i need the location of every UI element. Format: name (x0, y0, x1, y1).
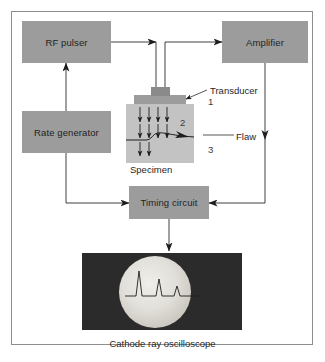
label-flaw: Flaw (236, 131, 256, 142)
label-echo-2: 2 (180, 117, 185, 128)
cro-phosphor-glow (119, 256, 191, 328)
block-timing-circuit: Timing circuit (129, 186, 209, 219)
transducer-body (134, 95, 186, 104)
cathode-ray-oscilloscope-screen (82, 253, 242, 330)
label-specimen: Specimen (130, 164, 172, 175)
label-echo-3: 3 (208, 144, 213, 155)
label-echo-1: 1 (208, 96, 213, 107)
specimen-block (126, 104, 194, 163)
block-rate-generator: Rate generator (22, 111, 111, 153)
block-amplifier: Amplifier (222, 21, 308, 63)
block-rf-pulser-label: RF pulser (45, 37, 87, 48)
transducer-connector (151, 87, 170, 96)
block-amplifier-label: Amplifier (246, 37, 284, 48)
block-rf-pulser: RF pulser (22, 21, 111, 63)
ultrasonic-flaw-detection-diagram: RF pulser Amplifier Rate generator Timin… (0, 0, 325, 362)
block-rate-generator-label: Rate generator (34, 127, 99, 138)
block-timing-circuit-label: Timing circuit (141, 197, 198, 208)
label-transducer: Transducer (210, 85, 258, 96)
label-cathode-ray-oscilloscope: Cathode ray oscilloscope (0, 338, 325, 349)
